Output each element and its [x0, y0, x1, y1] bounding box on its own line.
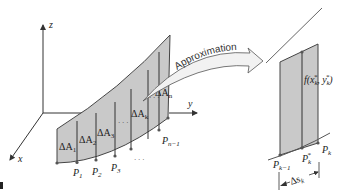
point-P0 — [55, 161, 58, 164]
ds-arrow-right — [309, 172, 318, 175]
point-Pk-1 — [278, 153, 281, 156]
label-P3: P3 — [110, 162, 121, 175]
point — [129, 147, 132, 150]
label-dots-1: · · · — [118, 119, 129, 127]
height-label: f(xk*, yk*) — [304, 73, 333, 87]
label-P1: P1 — [72, 167, 83, 180]
point-P3 — [113, 154, 116, 157]
label-P2: P2 — [91, 166, 102, 179]
z-axis-label: z — [48, 19, 53, 30]
x-axis-label: x — [17, 153, 23, 164]
point-Pk — [316, 141, 319, 144]
label-Pk: Pk — [321, 144, 332, 157]
detail-column — [280, 44, 318, 155]
tangent-point — [300, 50, 303, 53]
detail-panel: f(xk*, yk*) Pk−1 Pk* Pk Δsk — [266, 8, 333, 190]
x-axis — [10, 113, 43, 160]
y-axis-label: y — [187, 98, 193, 109]
label-Pn-1: Pn−1 — [161, 135, 180, 148]
point-P2 — [94, 158, 97, 161]
label-dots-points: · · · — [134, 156, 145, 164]
ds-arrowhead-left — [280, 181, 287, 186]
label-ds: Δsk — [288, 172, 306, 189]
point-Pk-star — [300, 146, 303, 149]
line-integral-diagram: z y x ΔA1 ΔA2 ΔA3 · · · ΔAk · · · ΔAn P1… — [0, 0, 349, 196]
figure-mark — [0, 182, 3, 189]
point-Pn — [166, 116, 169, 119]
label-Pk-star: Pk* — [301, 151, 312, 166]
curtain-surface: ΔA1 ΔA2 ΔA3 · · · ΔAk · · · ΔAn — [55, 35, 172, 165]
point-Pn-1 — [157, 128, 160, 131]
point-P1 — [75, 161, 78, 164]
label-Pk-1: Pk−1 — [272, 159, 290, 172]
